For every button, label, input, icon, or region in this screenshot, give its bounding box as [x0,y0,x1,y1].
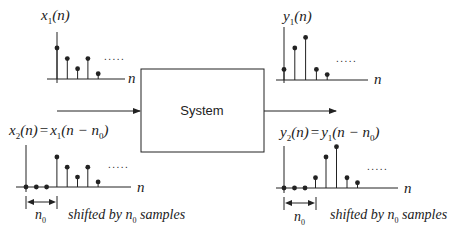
y1-axis-label: n [374,71,382,87]
sample-dot [325,72,330,77]
zero-sample-dot [292,186,297,191]
shifted-output-y2-plot: y2(n)=y1(n − n0) n ..... n0 shifted by n… [276,124,448,227]
sample-dot [55,46,60,51]
x1-continuation-dots: ..... [104,51,125,62]
sample-dot [86,56,91,61]
x2-continuation-dots: ..... [108,159,129,170]
y2-stems [282,144,360,190]
sample-dot [85,165,90,170]
zero-sample-dot [282,186,287,191]
y2-shift-caption: shifted by n0 samples [330,207,448,225]
sample-dot [334,144,339,149]
time-invariance-diagram: x1(n) n ..... y1(n) n ..... System x2(n)… [0,0,456,234]
system-label: System [180,103,223,118]
x2-shift-arrowhead-left [27,199,34,205]
x1-stems [55,46,101,79]
y2-shift-arrowhead-left [285,200,292,206]
x2-shift-arrowhead-right [49,199,56,205]
y2-shift-arrowhead-right [308,200,315,206]
x2-axis-label: n [137,179,145,195]
y1-label: y1(n) [281,8,312,27]
zero-sample-dot [24,185,29,190]
y2-equation-label: y2(n)=y1(n − n0) [278,124,379,143]
sample-dot [355,180,360,185]
zero-sample-dot [303,186,308,191]
sample-dot [282,67,287,72]
x2-equation-label: x2(n)=x1(n − n0) [8,122,108,141]
zero-sample-dot [34,185,39,190]
sample-dot [303,35,308,40]
input-signal-x1-plot: x1(n) n ..... [40,7,136,86]
sample-dot [65,56,70,61]
y2-shift-amount-label: n0 [294,209,305,227]
sample-dot [314,67,319,72]
sample-dot [313,175,318,180]
sample-dot [75,175,80,180]
sample-dot [292,46,297,51]
sample-dot [75,66,80,71]
x1-label: x1(n) [40,7,70,26]
zero-sample-dot [44,185,49,190]
sample-dot [96,71,101,76]
sample-dot [65,165,70,170]
x1-axis-label: n [128,70,136,86]
y2-continuation-dots: ..... [367,161,388,172]
y1-continuation-dots: ..... [336,53,357,64]
output-signal-y1-plot: y1(n) n ..... [276,8,382,87]
x2-shift-amount-label: n0 [35,207,46,225]
x2-shift-caption: shifted by n0 samples [68,207,186,225]
y1-stems [282,35,330,80]
y2-axis-label: n [404,180,412,196]
sample-dot [96,180,101,185]
sample-dot [55,155,60,160]
x2-stems [24,155,101,190]
sample-dot [324,155,329,160]
sample-dot [345,175,350,180]
